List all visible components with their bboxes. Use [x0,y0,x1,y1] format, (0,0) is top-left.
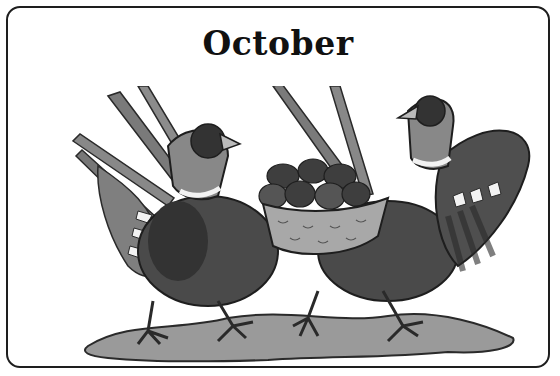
october-card: October [6,6,550,368]
card-title: October [8,24,548,63]
pheasants-basket-illustration [68,86,538,376]
basket-nuts [259,159,370,209]
